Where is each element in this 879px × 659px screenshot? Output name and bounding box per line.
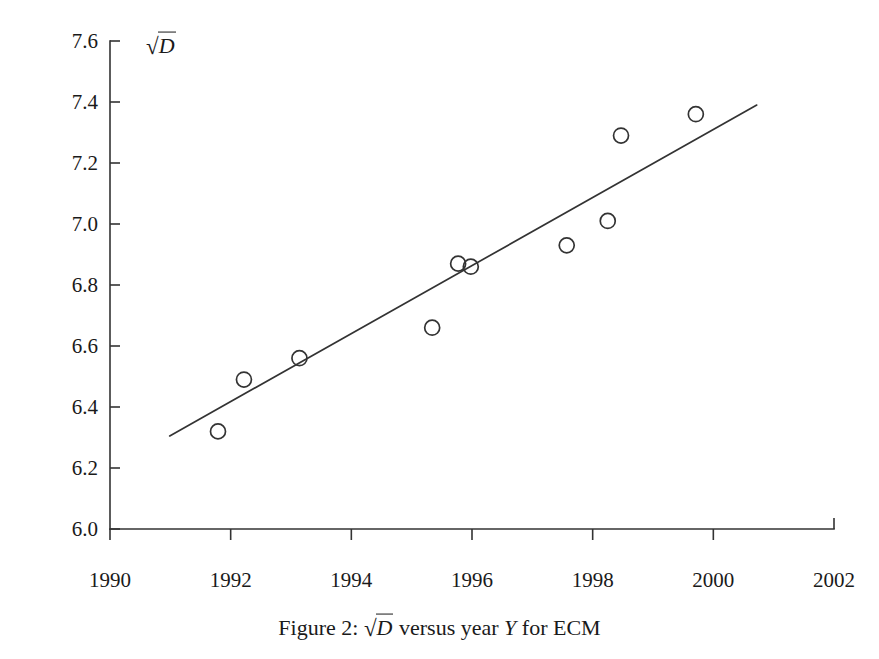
data-point-marker: [425, 320, 440, 335]
x-tick-label: 2000: [692, 570, 734, 591]
y-tick-label: 6.6: [36, 336, 98, 357]
axis-ticks: [110, 41, 834, 540]
data-point-marker: [600, 213, 615, 228]
y-tick-label: 7.4: [36, 92, 98, 113]
data-point-marker: [236, 372, 251, 387]
y-tick-label: 6.0: [36, 519, 98, 540]
x-tick-label: 1998: [572, 570, 614, 591]
data-point-marker: [210, 424, 225, 439]
caption-sqrt-symbol: √D: [364, 614, 394, 641]
y-tick-label: 6.8: [36, 275, 98, 296]
caption-radicand-letter: D: [376, 614, 394, 641]
sqrt-symbol: √D: [146, 32, 176, 59]
data-points: [210, 107, 703, 439]
data-point-marker: [614, 128, 629, 143]
caption-prefix: Figure 2:: [278, 615, 358, 640]
y-tick-label: 7.2: [36, 153, 98, 174]
caption-var-y: Y: [504, 615, 516, 640]
x-tick-label: 1992: [210, 570, 252, 591]
x-tick-label: 1994: [330, 570, 372, 591]
y-tick-label: 7.6: [36, 31, 98, 52]
x-tick-label: 1996: [451, 570, 493, 591]
figure-caption: Figure 2: √D versus year Y for ECM: [0, 614, 879, 641]
caption-suffix: for ECM: [522, 615, 601, 640]
y-axis-label: √D: [146, 32, 176, 59]
scatter-plot-svg: [0, 0, 879, 659]
data-point-marker: [688, 107, 703, 122]
x-tick-label: 1990: [89, 570, 131, 591]
figure-container: 6.06.26.46.66.87.07.27.47.6 199019921994…: [0, 0, 879, 659]
trend-line: [170, 105, 757, 436]
fitted-trend-line: [170, 105, 757, 436]
caption-middle: versus year: [399, 615, 499, 640]
x-tick-label: 2002: [813, 570, 855, 591]
y-tick-label: 6.4: [36, 397, 98, 418]
y-tick-label: 7.0: [36, 214, 98, 235]
radicand-letter: D: [158, 32, 176, 59]
y-tick-label: 6.2: [36, 458, 98, 479]
data-point-marker: [559, 238, 574, 253]
plot-axes: [110, 41, 834, 529]
